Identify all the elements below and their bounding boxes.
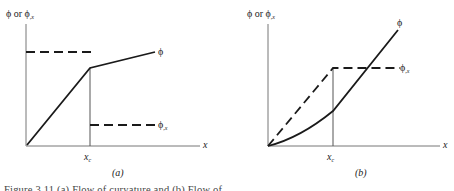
panel-a-phix-label: ϕ,x <box>158 120 167 133</box>
panel-a-x-text: x <box>203 139 207 150</box>
panel-a-y-label-text: ϕ or ϕ <box>6 8 30 19</box>
panel-a-x-axis-label: x <box>203 140 207 150</box>
panel-a-phi-curve <box>27 52 155 145</box>
panel-b-label-text: (b) <box>355 167 367 178</box>
panel-a-label-text: (a) <box>112 167 124 178</box>
panel-b-y-label-sub: ,x <box>271 14 275 20</box>
panel-a-y-axis-label: ϕ or ϕ,x <box>6 9 34 22</box>
panel-b-phix-label: ϕ,x <box>400 63 409 76</box>
panel-a-caption-label: (a) <box>112 168 124 178</box>
panel-b-y-axis-label: ϕ or ϕ,x <box>247 9 275 22</box>
panel-b-x-text: x <box>443 139 447 150</box>
panel-a-xc-sub: c <box>88 157 91 163</box>
panel-b-xc-sub: c <box>331 157 334 163</box>
panel-b-phi-label: ϕ <box>397 18 402 28</box>
panel-a-y-label-sub: ,x <box>30 14 34 20</box>
panel-b-y-label-text: ϕ or ϕ <box>247 8 271 19</box>
figure-canvas <box>0 0 454 191</box>
panel-b-phi-text: ϕ <box>397 17 402 28</box>
panel-b-phix-dashed <box>268 68 400 146</box>
panel-b-x-axis-label: x <box>443 140 447 150</box>
panel-a-phix-sub: ,x <box>163 125 167 131</box>
figure-caption: Figure 3.11 (a) Flow of curvature and (b… <box>4 184 234 191</box>
panel-a-phi-label: ϕ <box>158 47 163 57</box>
panel-b-caption-label: (b) <box>355 168 367 178</box>
panel-b-phix-sub: ,x <box>405 68 409 74</box>
panel-a-xc-label: xc <box>84 152 91 165</box>
panel-b-plot <box>268 24 440 146</box>
panel-b-xc-label: xc <box>327 152 334 165</box>
panel-a-phi-text: ϕ <box>158 46 163 57</box>
panel-a-plot <box>26 24 200 146</box>
